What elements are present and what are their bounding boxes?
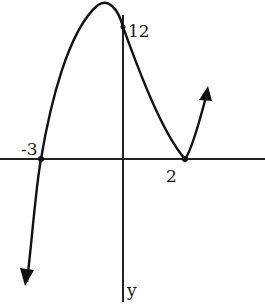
label-neg3: -3: [21, 139, 38, 159]
label-2: 2: [166, 166, 177, 186]
arrow-up-right-icon: [199, 86, 212, 101]
point-y-intercept-12: [121, 25, 126, 30]
arrow-down-left-icon: [20, 268, 34, 286]
curve: [27, 3, 207, 282]
point-x-intercept-2: [182, 156, 188, 162]
label-12: 12: [128, 21, 150, 41]
label-y-axis: y: [126, 280, 137, 300]
polynomial-graph: -3 12 2 y: [0, 0, 265, 305]
point-x-intercept-neg3: [38, 156, 44, 162]
